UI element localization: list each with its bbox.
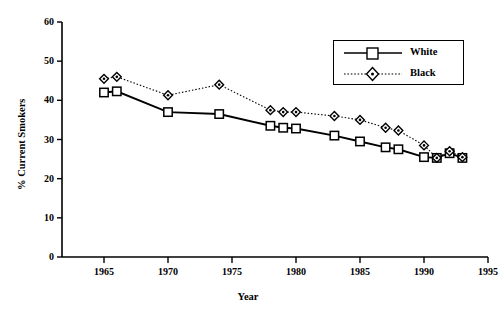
y-tick-label: 30 bbox=[16, 135, 54, 145]
legend-label-black: Black bbox=[410, 68, 436, 79]
x-tick-label: 1965 bbox=[79, 267, 129, 277]
y-tick-label: 20 bbox=[16, 174, 54, 184]
legend-item-black: Black bbox=[334, 63, 465, 85]
x-tick-label: 1970 bbox=[143, 267, 193, 277]
data-point-center bbox=[103, 77, 106, 80]
data-point-center bbox=[269, 109, 272, 112]
data-point-center bbox=[461, 156, 464, 159]
data-point-white bbox=[292, 124, 300, 132]
chart-legend: White Black bbox=[333, 40, 464, 85]
data-point-center bbox=[448, 150, 451, 153]
x-tick-label: 1995 bbox=[463, 267, 503, 277]
x-tick-label: 1985 bbox=[335, 267, 385, 277]
data-point-center bbox=[167, 94, 170, 97]
data-point-white bbox=[164, 108, 172, 116]
data-point-white bbox=[113, 87, 121, 95]
x-tick-label: 1975 bbox=[207, 267, 257, 277]
y-tick-label: 40 bbox=[16, 95, 54, 105]
data-point-center bbox=[423, 144, 426, 147]
data-point-white bbox=[279, 124, 287, 132]
x-tick-label: 1990 bbox=[399, 267, 449, 277]
data-point-white bbox=[356, 137, 364, 145]
data-point-white bbox=[330, 131, 338, 139]
x-tick-label: 1980 bbox=[271, 267, 321, 277]
legend-item-white: White bbox=[334, 42, 465, 64]
legend-swatch-black bbox=[342, 63, 404, 85]
x-axis-title: Year bbox=[0, 292, 496, 303]
data-point-white bbox=[266, 122, 274, 130]
data-point-center bbox=[333, 115, 336, 118]
y-tick-label: 10 bbox=[16, 213, 54, 223]
data-point-white bbox=[215, 110, 223, 118]
data-point-center bbox=[295, 111, 298, 114]
data-point-center bbox=[359, 119, 362, 122]
data-point-white bbox=[394, 145, 402, 153]
data-point-center bbox=[397, 129, 400, 132]
y-tick-label: 0 bbox=[16, 252, 54, 262]
legend-swatch-white bbox=[342, 42, 404, 64]
data-point-center bbox=[384, 126, 387, 129]
data-point-white bbox=[100, 88, 108, 96]
y-tick-label: 50 bbox=[16, 56, 54, 66]
y-tick-label: 60 bbox=[16, 17, 54, 27]
data-point-center bbox=[218, 83, 221, 86]
data-point-center bbox=[116, 76, 119, 79]
data-point-center bbox=[436, 157, 439, 160]
legend-label-white: White bbox=[410, 47, 437, 58]
data-point-center bbox=[282, 111, 285, 114]
data-point-white bbox=[420, 153, 428, 161]
data-point-white bbox=[381, 143, 389, 151]
